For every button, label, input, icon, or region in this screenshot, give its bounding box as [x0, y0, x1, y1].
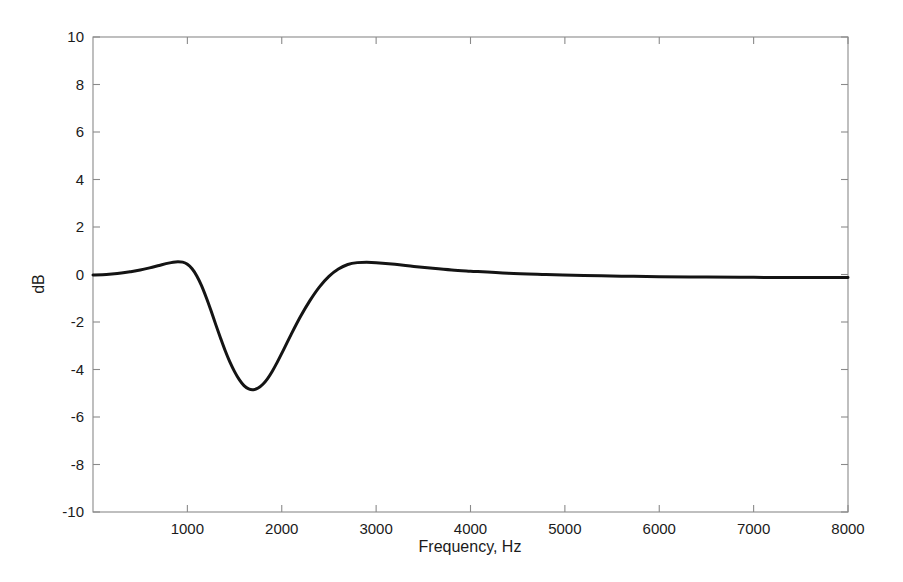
y-tick-label: -8 — [71, 456, 84, 473]
x-tick-label: 2000 — [265, 520, 298, 537]
x-tick-label: 7000 — [737, 520, 770, 537]
tick-marks-group — [93, 37, 848, 512]
x-tick-label: 8000 — [831, 520, 864, 537]
y-tick-label: -10 — [62, 503, 84, 520]
y-tick-label: 10 — [67, 28, 84, 45]
y-tick-label: -6 — [71, 408, 84, 425]
x-tick-label: 3000 — [359, 520, 392, 537]
y-tick-label: -2 — [71, 313, 84, 330]
y-tick-label: 4 — [76, 171, 84, 188]
x-tick-label: 5000 — [548, 520, 581, 537]
y-tick-label: 0 — [76, 266, 84, 283]
x-tick-label: 4000 — [454, 520, 487, 537]
axes-frame — [93, 37, 848, 512]
y-tick-labels-group: 1086420-2-4-6-8-10 — [62, 28, 84, 520]
axes-box — [93, 37, 848, 512]
x-tick-label: 6000 — [643, 520, 676, 537]
x-tick-label: 1000 — [171, 520, 204, 537]
x-tick-labels-group: 10002000300040005000600070008000 — [171, 520, 865, 537]
y-tick-label: 6 — [76, 123, 84, 140]
frequency-response-chart: 1086420-2-4-6-8-10 100020003000400050006… — [0, 0, 903, 582]
y-tick-label: 8 — [76, 76, 84, 93]
figure-canvas: 1086420-2-4-6-8-10 100020003000400050006… — [0, 0, 903, 582]
y-tick-label: -4 — [71, 361, 84, 378]
x-axis-title: Frequency, Hz — [419, 538, 522, 555]
y-tick-label: 2 — [76, 218, 84, 235]
y-axis-title: dB — [30, 274, 47, 294]
response-curve — [93, 262, 848, 390]
